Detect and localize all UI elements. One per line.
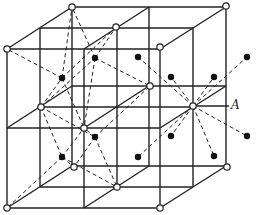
lattice-atom-open	[223, 3, 229, 9]
bond-line	[95, 27, 116, 58]
bond-line	[41, 107, 95, 137]
interstitial-atom-solid	[59, 154, 65, 160]
label-A: A	[231, 98, 240, 112]
interstitial-atom-solid	[211, 153, 217, 159]
interstitial-atom-solid	[244, 133, 250, 139]
bond-line	[95, 137, 117, 187]
bond-line	[62, 157, 117, 187]
interstitial-atom-solid	[168, 133, 174, 139]
lattice-atom-open	[38, 104, 44, 110]
bond-line	[193, 106, 214, 156]
lattice-atom-open	[71, 164, 77, 170]
bond-line	[41, 107, 62, 157]
bond-line	[95, 58, 150, 86]
bond-line	[62, 7, 72, 78]
fcc-lattice-diagram: A	[0, 0, 256, 215]
interstitial-atom-solid	[92, 55, 98, 61]
lattice-atom-open	[157, 44, 163, 50]
bond-line	[171, 77, 193, 106]
bond-line	[171, 106, 193, 136]
lattice-drawing	[0, 0, 256, 215]
interstitial-atom-solid	[244, 54, 250, 60]
bond-line	[138, 106, 193, 157]
bond-line	[95, 86, 150, 137]
bond-line	[62, 27, 116, 78]
lattice-atom-open	[114, 184, 120, 190]
lattice-atom-open	[69, 4, 75, 10]
lattice-atom-open	[81, 125, 87, 131]
lattice-atom-open	[4, 205, 10, 211]
bond-line	[138, 57, 193, 106]
lattice-atom-open	[147, 83, 153, 89]
lattice-atom-open	[113, 24, 119, 30]
interstitial-atom-solid	[59, 75, 65, 81]
bond-line	[193, 77, 214, 106]
interstitial-atom-solid	[135, 154, 141, 160]
bond-line	[84, 58, 95, 128]
bond-line	[41, 58, 95, 107]
bond-line	[7, 49, 62, 78]
interstitial-atom-solid	[92, 134, 98, 140]
interstitial-atom-solid	[211, 74, 217, 80]
bond-line	[41, 78, 62, 107]
lattice-atom-open	[4, 46, 10, 52]
interstitial-atom-solid	[135, 54, 141, 60]
interstitial-atom-solid	[168, 74, 174, 80]
bond-line	[62, 128, 84, 157]
lattice-atom-open	[224, 164, 230, 170]
lattice-atom-open	[190, 103, 196, 109]
bond-line	[7, 157, 62, 208]
lattice-atom-open	[157, 205, 163, 211]
